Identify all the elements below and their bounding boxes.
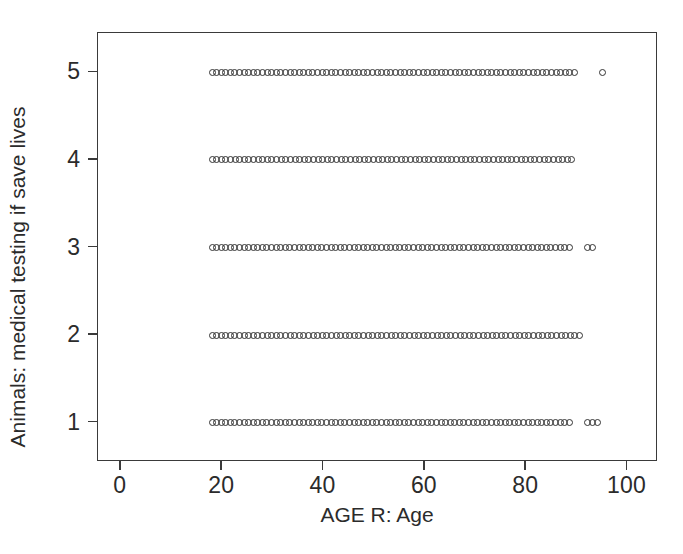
x-tick-label: 40	[310, 472, 336, 499]
y-tick-label: 5	[67, 58, 80, 85]
y-tick-label: 1	[67, 408, 80, 435]
data-point	[576, 332, 583, 339]
data-point	[566, 419, 573, 426]
y-tick-label: 2	[67, 321, 80, 348]
x-tick-label: 60	[411, 472, 437, 499]
y-axis-title: Animals: medical testing if save lives	[0, 0, 36, 554]
x-tick-label: 0	[113, 472, 126, 499]
data-point	[566, 244, 573, 251]
y-tick-mark	[88, 158, 97, 160]
x-tick-mark	[220, 461, 222, 470]
y-tick-mark	[88, 71, 97, 73]
y-tick-mark	[88, 246, 97, 248]
x-tick-mark	[524, 461, 526, 470]
y-tick-mark	[88, 421, 97, 423]
x-tick-label: 20	[208, 472, 234, 499]
x-tick-label: 80	[512, 472, 538, 499]
x-tick-mark	[423, 461, 425, 470]
data-point	[568, 156, 575, 163]
x-tick-mark	[119, 461, 121, 470]
scatter-plot-figure: 020406080100 12345 AGE R: Age Animals: m…	[0, 0, 683, 554]
data-point	[594, 419, 601, 426]
data-point	[599, 69, 606, 76]
x-tick-mark	[322, 461, 324, 470]
y-tick-mark	[88, 333, 97, 335]
x-axis-title: AGE R: Age	[97, 503, 657, 527]
x-tick-mark	[626, 461, 628, 470]
data-point	[589, 244, 596, 251]
data-point	[571, 69, 578, 76]
y-tick-label: 3	[67, 233, 80, 260]
y-tick-label: 4	[67, 145, 80, 172]
x-tick-label: 100	[607, 472, 646, 499]
plot-area-frame	[97, 32, 657, 461]
